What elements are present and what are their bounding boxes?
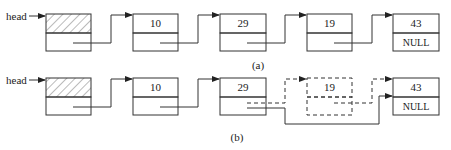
caption-a: (a) — [252, 59, 265, 72]
list-node: 29 — [220, 78, 266, 115]
list-node: 29 — [220, 14, 266, 51]
removed-pointer-arrow — [247, 79, 306, 103]
next-pointer-arrow — [160, 79, 219, 107]
head-label: head — [6, 10, 27, 22]
tail-node: 43 NULL — [393, 14, 439, 51]
null-pointer: NULL — [403, 101, 430, 112]
caption-b: (b) — [231, 131, 244, 144]
node-data: 43 — [411, 17, 423, 29]
removed-pointer-arrow — [334, 79, 392, 103]
list-node: 10 — [133, 14, 178, 51]
list-node: 19 — [307, 14, 352, 51]
node-data: 10 — [150, 81, 162, 93]
bypass-pointer-arrow — [247, 96, 392, 124]
node-data: 19 — [324, 81, 336, 93]
linked-list-diagram: head 10 29 19 — [0, 0, 451, 150]
node-data: 43 — [411, 81, 423, 93]
deleted-node: 19 — [307, 78, 352, 115]
null-pointer: NULL — [403, 37, 430, 48]
node-data: 10 — [150, 17, 162, 29]
node-data: 19 — [324, 17, 336, 29]
list-node: 10 — [133, 78, 178, 115]
head-node — [46, 78, 91, 115]
diagram-b: head 10 29 19 — [6, 74, 439, 144]
next-pointer-arrow — [334, 15, 392, 43]
head-node — [46, 14, 91, 51]
node-data: 29 — [238, 17, 250, 29]
diagram-a: head 10 29 19 — [6, 10, 439, 72]
next-pointer-arrow — [247, 15, 306, 43]
next-pointer-arrow — [160, 15, 219, 43]
tail-node: 43 NULL — [393, 78, 439, 115]
node-data: 29 — [238, 81, 250, 93]
head-label: head — [6, 74, 27, 86]
